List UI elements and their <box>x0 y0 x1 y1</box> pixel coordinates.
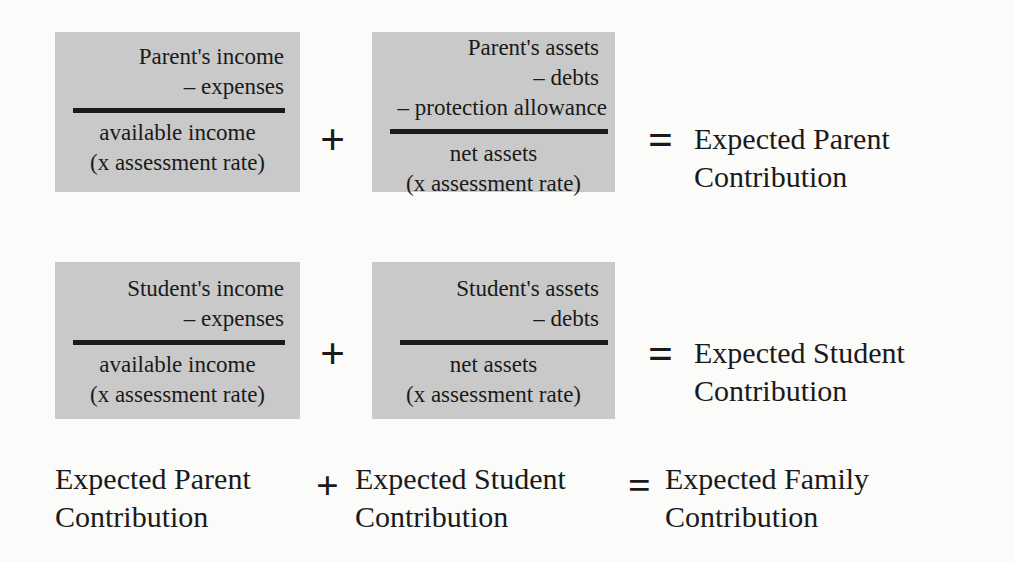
result-line: Expected Student <box>694 334 1014 372</box>
fraction: Parent's income – expenses available inc… <box>55 42 300 178</box>
parent-income-formula-box: Parent's income – expenses available inc… <box>55 32 300 192</box>
student-income-formula-box: Student's income – expenses available in… <box>55 262 300 419</box>
denominator-line: net assets <box>372 350 615 380</box>
denominator-line: (x assessment rate) <box>55 380 300 410</box>
numerator-line: Parent's income <box>55 42 300 72</box>
expected-parent-contribution-label: Expected Parent Contribution <box>694 120 1014 196</box>
fraction: Parent's assets – debts – protection all… <box>372 33 615 199</box>
summary-line: Contribution <box>55 498 251 536</box>
numerator-line: Student's income <box>55 274 300 304</box>
efc-formula-diagram: Parent's income – expenses available inc… <box>0 0 1015 562</box>
family-contribution-summary-row: Expected Parent Contribution + Expected … <box>0 452 1015 552</box>
student-formula-row: Student's income – expenses available in… <box>0 262 1015 419</box>
summary-line: Expected Student <box>355 460 566 498</box>
fraction: Student's income – expenses available in… <box>55 274 300 410</box>
numerator-line: Student's assets <box>372 274 615 304</box>
fraction-bar <box>400 340 608 345</box>
expected-student-contribution-label: Expected Student Contribution <box>694 334 1014 410</box>
numerator-line: – debts <box>372 63 615 93</box>
result-line: Contribution <box>694 372 1014 410</box>
student-assets-formula-box: Student's assets – debts net assets (x a… <box>372 262 615 419</box>
denominator-line: net assets <box>372 139 615 169</box>
denominator-line: (x assessment rate) <box>372 380 615 410</box>
denominator-line: (x assessment rate) <box>372 169 615 199</box>
plus-operator: + <box>320 118 345 162</box>
fraction-bar <box>73 340 285 345</box>
summary-expected-parent-contribution: Expected Parent Contribution <box>55 460 251 536</box>
denominator-line: available income <box>55 350 300 380</box>
summary-expected-student-contribution: Expected Student Contribution <box>355 460 566 536</box>
summary-line: Expected Parent <box>55 460 251 498</box>
numerator-line: Parent's assets <box>372 33 615 63</box>
equals-operator: = <box>628 466 651 506</box>
equals-operator: = <box>648 118 673 162</box>
numerator-line: – protection allowance <box>362 93 615 123</box>
numerator-line: – expenses <box>55 72 300 102</box>
fraction-bar <box>390 129 608 134</box>
parent-formula-row: Parent's income – expenses available inc… <box>0 32 1015 192</box>
equals-operator: = <box>648 332 673 376</box>
denominator-line: available income <box>55 118 300 148</box>
denominator-line: (x assessment rate) <box>55 148 300 178</box>
summary-line: Contribution <box>665 498 869 536</box>
parent-assets-formula-box: Parent's assets – debts – protection all… <box>372 32 615 192</box>
fraction-bar <box>73 108 285 113</box>
summary-expected-family-contribution: Expected Family Contribution <box>665 460 869 536</box>
summary-line: Contribution <box>355 498 566 536</box>
plus-operator: + <box>320 332 345 376</box>
numerator-line: – expenses <box>55 304 300 334</box>
result-line: Expected Parent <box>694 120 1014 158</box>
fraction: Student's assets – debts net assets (x a… <box>372 274 615 410</box>
plus-operator: + <box>316 466 339 506</box>
summary-line: Expected Family <box>665 460 869 498</box>
numerator-line: – debts <box>372 304 615 334</box>
result-line: Contribution <box>694 158 1014 196</box>
